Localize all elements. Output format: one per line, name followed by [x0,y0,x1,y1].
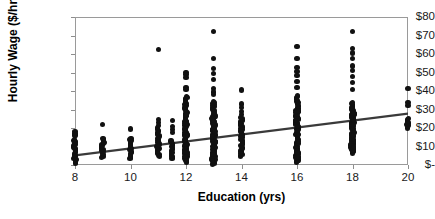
data-point [170,118,175,123]
data-point [350,56,355,61]
data-point [211,56,216,61]
data-point [185,133,190,138]
data-point [72,132,77,137]
data-point [210,144,215,149]
data-point [350,29,355,34]
data-point [209,116,214,121]
x-tick-label: 10 [124,172,137,184]
data-point [296,139,301,144]
data-point [296,108,301,113]
x-tick-label: 16 [291,172,304,184]
data-point [100,122,105,127]
x-tick-label: 18 [346,172,359,184]
data-point [351,145,356,150]
x-tick-mark [408,165,409,169]
data-point [170,130,175,135]
data-point [294,79,299,84]
data-point [239,112,244,117]
data-point [405,86,410,91]
plot-area [75,17,408,165]
data-point [211,77,216,82]
data-point [128,136,133,141]
x-tick-mark [297,165,298,169]
data-point [295,124,300,129]
data-point [156,123,161,128]
data-point [168,138,173,143]
data-point [156,47,161,52]
x-tick-mark [131,165,132,169]
data-point [239,87,244,92]
x-axis-title: Education (yrs) [75,190,408,204]
x-tick-mark [353,165,354,169]
x-tick-label: 12 [180,172,193,184]
data-point [293,118,298,123]
data-point [351,122,356,127]
data-point [350,80,355,85]
data-point [350,50,355,55]
data-point [294,44,299,49]
data-point [294,56,299,61]
x-tick-label: 20 [402,172,415,184]
scatter-chart-figure: Hourly Wage ($/hr) Education (yrs) $-$10… [0,0,435,219]
data-point [184,150,189,155]
data-point [211,92,216,97]
data-point [210,152,215,157]
data-point [294,85,299,90]
x-tick-label: 14 [235,172,248,184]
data-point [350,68,355,73]
data-point [184,112,189,117]
data-point [212,129,217,134]
data-point [350,74,355,79]
x-tick-mark [242,165,243,169]
x-tick-mark [186,165,187,169]
data-point [405,103,410,108]
data-point [296,154,301,159]
data-point [294,73,299,78]
data-point [350,100,355,105]
y-axis-title-text: Hourly Wage ($/hr) [6,0,20,102]
x-axis-title-text: Education (yrs) [198,190,285,204]
data-point [350,87,355,92]
data-point [128,126,133,131]
data-point [183,75,188,80]
data-point [183,87,188,92]
data-point [100,136,105,141]
data-point [211,71,216,76]
y-axis-title: Hourly Wage ($/hr) [6,0,20,114]
x-tick-label: 8 [72,172,78,184]
data-point [211,29,216,34]
